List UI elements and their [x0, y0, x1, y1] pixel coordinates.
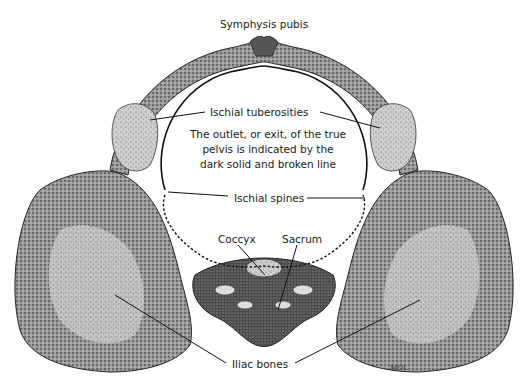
label-ischial-spines: Ischial spines: [234, 192, 304, 204]
caption-line-2: pelvis is indicated by the: [202, 143, 333, 155]
outlet-broken-line: [163, 195, 364, 267]
left-ischial-tuberosity: [112, 104, 158, 171]
label-coccyx: Coccyx: [218, 233, 256, 245]
right-ischial-tuberosity: [370, 104, 416, 171]
label-iliac-bones: Iliac bones: [232, 358, 288, 370]
label-symphysis-pubis: Symphysis pubis: [220, 18, 308, 30]
pelvic-outlet-illustration: Symphysis pubis Ischial tuberosities The…: [0, 0, 528, 385]
caption-line-1: The outlet, or exit, of the true: [189, 128, 346, 140]
pelvis-drawing: Symphysis pubis Ischial tuberosities The…: [0, 0, 528, 385]
artist-signature: MOL: [389, 364, 408, 372]
label-ischial-tuberosities: Ischial tuberosities: [210, 106, 308, 118]
label-sacrum: Sacrum: [282, 233, 322, 245]
caption-line-3: dark solid and broken line: [200, 158, 336, 170]
